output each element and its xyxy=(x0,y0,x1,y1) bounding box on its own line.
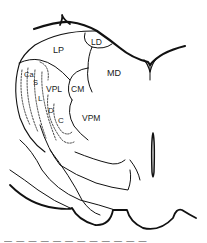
label-c: C xyxy=(58,116,64,125)
label-md: MD xyxy=(107,68,121,78)
label-l: L xyxy=(38,94,43,103)
label-cm: CM xyxy=(71,84,84,94)
ventricle-slit xyxy=(152,133,155,177)
label-ld: LD xyxy=(91,37,102,47)
ventral-boundary xyxy=(10,185,196,229)
top-notch-left xyxy=(60,15,70,25)
lp-md-boundary xyxy=(88,47,92,68)
lower-curve-5 xyxy=(50,150,100,215)
figure-caption-cropped: — — — — — — — — — — — — xyxy=(4,236,204,243)
lower-curve-3 xyxy=(75,152,125,164)
thalamus-diagram: LP LD MD CM VPL VPM Ca S L D C xyxy=(0,0,207,243)
dorsal-boundary xyxy=(34,22,185,65)
label-d: D xyxy=(48,106,54,115)
label-vpl: VPL xyxy=(46,84,62,94)
label-s: S xyxy=(33,78,38,87)
label-vpm: VPM xyxy=(82,113,100,123)
lower-curve-6 xyxy=(130,160,140,180)
label-lp: LP xyxy=(53,45,64,55)
